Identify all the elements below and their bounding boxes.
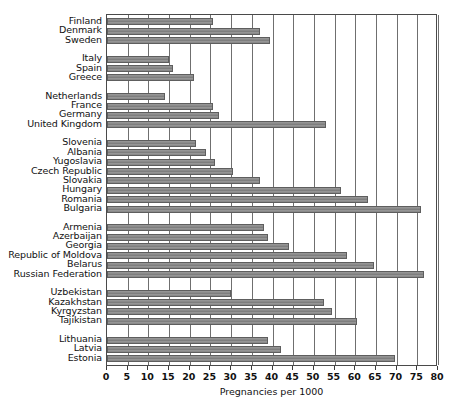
bar-row — [107, 159, 438, 166]
x-axis: 05101520253035404550556065707580 — [106, 366, 437, 386]
bar-row — [107, 93, 438, 100]
bar-row — [107, 196, 438, 203]
x-tick-mark — [209, 366, 210, 370]
bar — [107, 299, 324, 306]
x-tick-mark — [396, 366, 397, 370]
bar — [107, 112, 219, 119]
bar-row — [107, 37, 438, 44]
bar — [107, 234, 268, 241]
bar — [107, 290, 231, 297]
bar-row — [107, 271, 438, 278]
bar-row — [107, 290, 438, 297]
x-tick-label: 55 — [327, 371, 340, 382]
x-tick-mark — [375, 366, 376, 370]
bar — [107, 28, 260, 35]
bar-row — [107, 121, 438, 128]
bar-row — [107, 149, 438, 156]
bar-row — [107, 355, 438, 362]
pregnancy-rate-bar-chart: FinlandDenmarkSwedenItalySpainGreeceNeth… — [0, 0, 459, 415]
bar — [107, 93, 165, 100]
x-tick-label: 80 — [430, 371, 443, 382]
category-label: Estonia — [0, 353, 102, 362]
bar — [107, 252, 347, 259]
x-tick-label: 40 — [265, 371, 278, 382]
bar — [107, 168, 233, 175]
x-tick-mark — [416, 366, 417, 370]
x-tick-label: 10 — [141, 371, 154, 382]
x-tick-mark — [334, 366, 335, 370]
bar — [107, 65, 173, 72]
x-tick-label: 75 — [410, 371, 423, 382]
x-tick-mark — [272, 366, 273, 370]
bar-row — [107, 234, 438, 241]
bar — [107, 196, 368, 203]
bar-row — [107, 74, 438, 81]
bar — [107, 149, 206, 156]
x-axis-title: Pregnancies per 1000 — [106, 386, 437, 397]
bar — [107, 224, 264, 231]
x-tick-label: 25 — [203, 371, 216, 382]
category-label: Tajikistan — [0, 315, 102, 324]
x-tick-label: 45 — [286, 371, 299, 382]
bar-row — [107, 18, 438, 25]
bar-row — [107, 177, 438, 184]
bar — [107, 308, 332, 315]
x-tick-mark — [437, 366, 438, 370]
category-label: Bulgaria — [0, 203, 102, 212]
gridline — [438, 15, 439, 365]
bar — [107, 355, 395, 362]
category-axis-labels: FinlandDenmarkSwedenItalySpainGreeceNeth… — [0, 14, 102, 366]
bar-row — [107, 187, 438, 194]
bar — [107, 187, 341, 194]
category-label: Yugoslavia — [0, 156, 102, 165]
x-tick-label: 5 — [123, 371, 130, 382]
x-tick-mark — [106, 366, 107, 370]
bar — [107, 243, 289, 250]
bar-row — [107, 299, 438, 306]
x-tick-mark — [354, 366, 355, 370]
bar-row — [107, 206, 438, 213]
bar — [107, 337, 268, 344]
category-label: Sweden — [0, 35, 102, 44]
bar-row — [107, 112, 438, 119]
bar — [107, 206, 421, 213]
bar — [107, 318, 357, 325]
bar-row — [107, 337, 438, 344]
category-label: Hungary — [0, 184, 102, 193]
category-label: Uzbekistan — [0, 287, 102, 296]
x-tick-label: 60 — [348, 371, 361, 382]
x-tick-mark — [313, 366, 314, 370]
category-label: Denmark — [0, 25, 102, 34]
bar — [107, 37, 270, 44]
category-label: Italy — [0, 53, 102, 62]
category-label: Belarus — [0, 259, 102, 268]
bar — [107, 159, 215, 166]
x-tick-mark — [230, 366, 231, 370]
category-label: Russian Federation — [0, 269, 102, 278]
bar-row — [107, 243, 438, 250]
bar-row — [107, 308, 438, 315]
category-label: Greece — [0, 72, 102, 81]
bar-row — [107, 252, 438, 259]
x-tick-mark — [189, 366, 190, 370]
bar — [107, 346, 281, 353]
bar — [107, 74, 194, 81]
x-tick-mark — [147, 366, 148, 370]
category-label: United Kingdom — [0, 119, 102, 128]
x-tick-mark — [251, 366, 252, 370]
bar-row — [107, 168, 438, 175]
bar-row — [107, 103, 438, 110]
bar-row — [107, 318, 438, 325]
bar-row — [107, 65, 438, 72]
x-tick-mark — [292, 366, 293, 370]
bar — [107, 18, 213, 25]
bar — [107, 262, 374, 269]
x-tick-label: 30 — [224, 371, 237, 382]
x-tick-label: 0 — [103, 371, 110, 382]
bar — [107, 177, 260, 184]
bar-row — [107, 224, 438, 231]
plot-area — [106, 14, 437, 366]
x-tick-label: 15 — [161, 371, 174, 382]
bar — [107, 121, 326, 128]
bar-row — [107, 262, 438, 269]
